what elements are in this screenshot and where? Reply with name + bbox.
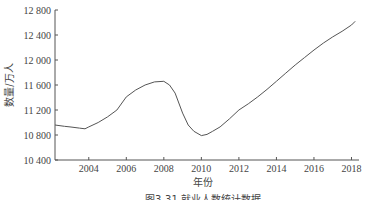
y-tick-label: 12 000	[24, 55, 52, 66]
x-tick-label: 2014	[266, 163, 286, 174]
x-tick-label: 2006	[116, 163, 136, 174]
series-line	[55, 21, 355, 135]
y-tick-label: 10 800	[24, 130, 52, 141]
y-tick-label: 12 800	[24, 5, 52, 16]
x-tick-label: 2004	[79, 163, 99, 174]
y-tick-label: 11 600	[24, 80, 51, 91]
line-chart: 10 40010 80011 20011 60012 00012 40012 8…	[0, 0, 367, 200]
x-tick-label: 2016	[304, 163, 324, 174]
x-tick-label: 2012	[229, 163, 249, 174]
y-tick-label: 12 400	[24, 30, 52, 41]
data-series	[55, 21, 355, 135]
y-axis-title: 数量/万人	[3, 63, 15, 106]
y-tick-label: 10 400	[24, 155, 52, 166]
x-tick-label: 2018	[341, 163, 361, 174]
x-tick-label: 2010	[191, 163, 211, 174]
figure-caption: 图3-31 就业人数统计数据	[145, 193, 261, 200]
x-tick-label: 2008	[154, 163, 174, 174]
x-axis: 20042006200820102012201420162018	[55, 157, 361, 174]
x-axis-title: 年份	[193, 176, 213, 188]
y-axis: 10 40010 80011 20011 60012 00012 40012 8…	[24, 5, 59, 166]
y-tick-label: 11 200	[24, 105, 51, 116]
